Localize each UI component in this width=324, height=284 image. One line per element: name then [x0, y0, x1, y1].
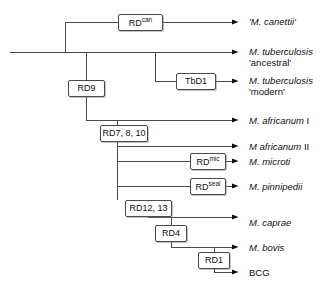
node-rd9[interactable]: RD9 [68, 80, 105, 97]
leaf-tb-ancestral-qualifier: 'ancestral' [249, 57, 313, 68]
leaf-label-tb-ancestral: M. tuberculosis 'ancestral' [249, 46, 313, 68]
phylogenetic-tree-diagram: RDcan RD9 TbD1 RD7, 8, 10 RDmic RDseal R… [0, 0, 324, 284]
node-rd-can-label: RDcan [129, 17, 152, 28]
leaf-label-pinnipedii: M. pinnipedii [249, 181, 302, 192]
branch-to-tbd1 [155, 52, 176, 81]
node-rd12-13-label: RD12, 13 [129, 204, 167, 213]
leaf-tb-modern-qualifier: 'modern' [249, 86, 313, 97]
node-tbd1[interactable]: TbD1 [176, 73, 216, 90]
node-rd-can[interactable]: RDcan [118, 14, 163, 31]
leaf-microti-name: M. microti [249, 156, 290, 167]
node-rd-mic[interactable]: RDmic [190, 153, 226, 170]
leaf-africanum-ii-name: M africanum [249, 141, 301, 152]
node-rd1-label: RD1 [205, 256, 223, 265]
leaf-africanum-i-numeral: I [304, 115, 309, 126]
leaf-label-microti: M. microti [249, 156, 290, 167]
leaf-label-caprae: M. caprae [249, 217, 291, 228]
node-rd4-label: RD4 [162, 229, 180, 238]
node-rd12-13[interactable]: RD12, 13 [125, 200, 172, 217]
leaf-label-africanum-ii: M africanum II [249, 141, 309, 152]
node-rd7-8-10-label: RD7, 8, 10 [102, 129, 145, 138]
node-rd7-8-10[interactable]: RD7, 8, 10 [100, 125, 148, 142]
leaf-label-africanum-i: M. africanum I [249, 115, 309, 126]
leaf-label-canettii: 'M. canettii' [249, 16, 296, 27]
node-rd-seal[interactable]: RDseal [190, 178, 226, 195]
leaf-canettii-name: 'M. canettii' [249, 16, 296, 27]
leaf-label-bovis: M. bovis [249, 242, 284, 253]
leaf-tb-ancestral-name: M. tuberculosis [249, 46, 313, 57]
node-tbd1-label: TbD1 [185, 77, 207, 86]
node-rd1[interactable]: RD1 [198, 252, 230, 269]
branch-to-bovis [171, 242, 232, 247]
node-rd4[interactable]: RD4 [155, 225, 187, 242]
leaf-label-bcg: BCG [249, 267, 270, 278]
leaf-africanum-i-name: M. africanum [249, 115, 304, 126]
leaf-label-tb-modern: M. tuberculosis 'modern' [249, 75, 313, 97]
branch-to-rdcan [65, 22, 118, 52]
node-rd9-label: RD9 [77, 84, 95, 93]
node-rd-mic-label: RDmic [196, 156, 219, 167]
node-rd-seal-label: RDseal [196, 181, 221, 192]
leaf-bovis-name: M. bovis [249, 242, 284, 253]
leaf-pinnipedii-name: M. pinnipedii [249, 181, 302, 192]
leaf-africanum-ii-numeral: II [301, 141, 309, 152]
branch-rd1-to-bcg [214, 269, 232, 272]
leaf-bcg-name: BCG [249, 267, 270, 278]
leaf-tb-modern-name: M. tuberculosis [249, 75, 313, 86]
leaf-caprae-name: M. caprae [249, 217, 291, 228]
